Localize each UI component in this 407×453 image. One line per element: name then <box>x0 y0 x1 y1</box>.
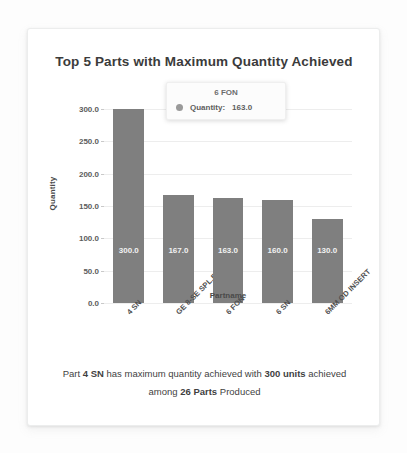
y-tick-label: 100.0 <box>79 234 99 243</box>
y-tick-mark <box>101 271 104 272</box>
bar-value-label: 163.0 <box>213 246 244 255</box>
footer-parts-count: 26 Parts <box>180 386 217 397</box>
series-marker-icon <box>176 104 183 111</box>
bar-value-label: 160.0 <box>262 246 293 255</box>
bar-value-label: 167.0 <box>163 246 194 255</box>
y-tick-label: 50.0 <box>83 266 99 275</box>
y-axis-title: Quantity <box>48 149 57 239</box>
bar[interactable]: 160.0 <box>262 200 293 303</box>
page-background: Top 5 Parts with Maximum Quantity Achiev… <box>0 0 407 453</box>
footer-prefix: Part <box>63 368 83 379</box>
y-tick-mark <box>101 141 104 142</box>
footer-units: 300 units <box>264 368 305 379</box>
tooltip-header: 6 FON <box>167 88 285 103</box>
tooltip-series-label: Quantity: <box>190 103 225 112</box>
bar-value-label: 130.0 <box>312 246 343 255</box>
y-tick-mark <box>101 174 104 175</box>
y-tick-mark <box>101 109 104 110</box>
chart-title: Top 5 Parts with Maximum Quantity Achiev… <box>54 52 354 71</box>
y-tick-label: 0.0 <box>88 299 99 308</box>
plot-area: 0.050.0100.0150.0200.0250.0300.0300.04 S… <box>104 109 352 304</box>
y-tick-label: 200.0 <box>79 169 99 178</box>
footer-suffix: Produced <box>217 386 260 397</box>
y-tick-mark <box>101 206 104 207</box>
bar[interactable]: 167.0 <box>163 195 194 303</box>
bar-value-label: 300.0 <box>113 246 144 255</box>
x-axis-title: Partname <box>104 291 352 300</box>
y-tick-mark <box>101 238 104 239</box>
bar[interactable]: 163.0 <box>213 198 244 303</box>
y-tick-label: 300.0 <box>79 105 99 114</box>
chart-tooltip: 6 FON Quantity: 163.0 <box>166 82 286 120</box>
y-tick-label: 150.0 <box>79 202 99 211</box>
y-tick-label: 250.0 <box>79 137 99 146</box>
tooltip-row: Quantity: 163.0 <box>167 103 285 112</box>
summary-text: Part 4 SN has maximum quantity achieved … <box>48 365 361 400</box>
bar[interactable]: 300.0 <box>113 109 144 303</box>
plot-container: Quantity 0.050.0100.0150.0200.0250.0300.… <box>28 101 380 353</box>
footer-middle: has maximum quantity achieved with <box>104 368 265 379</box>
tooltip-value: 163.0 <box>232 103 252 112</box>
chart-card: Top 5 Parts with Maximum Quantity Achiev… <box>27 28 380 426</box>
y-tick-mark <box>101 303 104 304</box>
footer-part-name: 4 SN <box>83 368 104 379</box>
